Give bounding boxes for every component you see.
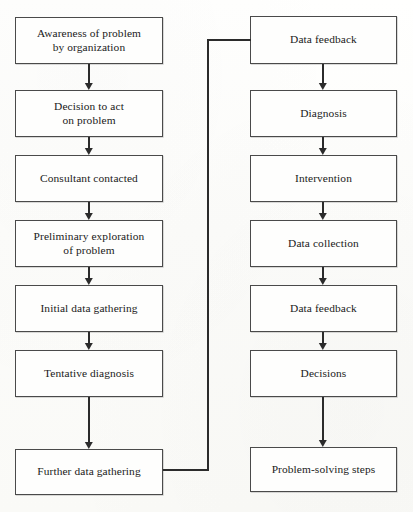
node-further-data-gathering[interactable]: Further data gathering [15,449,163,495]
node-label: Preliminary exploration of problem [30,230,149,258]
node-label: Decisions [297,367,351,381]
node-diagnosis[interactable]: Diagnosis [250,90,397,137]
node-initial-data-gathering[interactable]: Initial data gathering [15,285,163,332]
node-decisions[interactable]: Decisions [250,350,397,397]
node-label: Data feedback [286,302,361,316]
node-data-feedback-2[interactable]: Data feedback [250,285,397,332]
node-label: Data feedback [286,33,361,47]
node-intervention[interactable]: Intervention [250,155,397,202]
feedback-loop-segment-horizontal-bottom [163,469,209,471]
feedback-loop-segment-vertical [207,39,209,471]
flowchart-diagram: Awareness of problem by organization Dec… [0,0,413,512]
node-label: Decision to act on problem [50,100,128,128]
node-decision-to-act[interactable]: Decision to act on problem [15,90,163,137]
node-label: Tentative diagnosis [40,367,138,381]
feedback-loop-segment-horizontal-top [207,39,251,41]
node-label: Initial data gathering [36,302,141,316]
node-data-collection[interactable]: Data collection [250,220,397,267]
node-awareness[interactable]: Awareness of problem by organization [15,17,163,64]
node-label: Further data gathering [33,465,144,479]
node-preliminary-exploration[interactable]: Preliminary exploration of problem [15,220,163,267]
node-label: Data collection [284,237,363,251]
node-consultant-contacted[interactable]: Consultant contacted [15,155,163,202]
node-label: Diagnosis [296,107,350,121]
node-problem-solving-steps[interactable]: Problem-solving steps [250,447,397,492]
node-label: Intervention [291,172,356,186]
node-label: Awareness of problem by organization [33,27,145,55]
node-data-feedback-1[interactable]: Data feedback [250,16,397,64]
node-label: Problem-solving steps [268,463,380,477]
node-label: Consultant contacted [36,172,142,186]
node-tentative-diagnosis[interactable]: Tentative diagnosis [15,350,163,397]
